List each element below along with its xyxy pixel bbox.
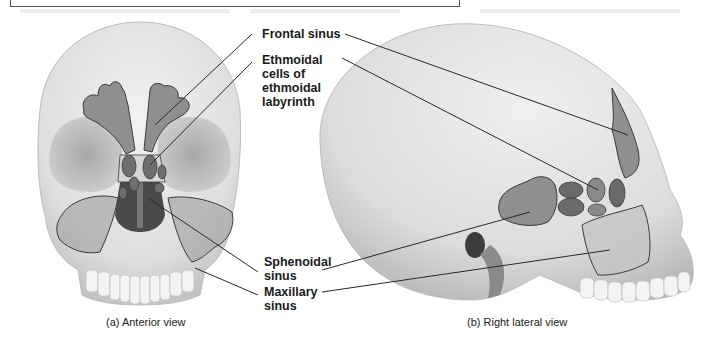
label-ethmoidal-cells: Ethmoidal cells of ethmoidal labyrinth [262,53,322,109]
caption-lateral-view: (b) Right lateral view [467,316,567,328]
lateral-skull [320,24,693,302]
caption-anterior-view: (a) Anterior view [106,316,185,328]
label-frontal-sinus: Frontal sinus [262,27,340,41]
sinus-illustration [0,0,709,345]
anterior-skull [38,22,241,305]
label-sphenoidal-sinus: Sphenoidal sinus [264,255,331,283]
label-maxillary-sinus: Maxillary sinus [264,285,318,313]
